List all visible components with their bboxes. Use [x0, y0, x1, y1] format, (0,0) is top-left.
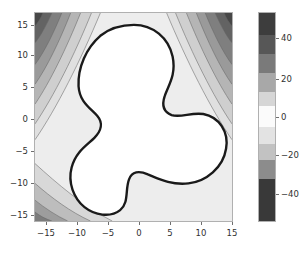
ytick-mark-neg15 [31, 215, 34, 216]
colorbar-band-10 [259, 179, 275, 222]
cbtick-label-0: 0 [281, 112, 286, 122]
ytick-label-neg5: −5 [2, 146, 28, 156]
cbtick-label-20: 20 [281, 74, 292, 84]
colorbar-band-3 [259, 54, 275, 73]
ytick-mark-neg5 [31, 151, 34, 152]
cbtick-label-neg40: −40 [281, 189, 299, 199]
ytick-label-0: 0 [2, 114, 28, 124]
xtick-label-10: 10 [186, 228, 216, 238]
xtick-label-neg5: −5 [93, 228, 123, 238]
xtick-mark-neg5 [108, 222, 109, 225]
ytick-label-neg10: −10 [2, 178, 28, 188]
contour-figure: 15 10 5 0 −5 −10 −15 −15 −10 −5 0 5 10 1… [0, 0, 305, 257]
xtick-label-neg15: −15 [31, 228, 61, 238]
cbtick-label-neg20: −20 [281, 150, 299, 160]
xtick-mark-15 [232, 222, 233, 225]
colorbar [258, 12, 276, 222]
cbtick-mark-neg20 [276, 155, 279, 156]
ytick-mark-0 [31, 119, 34, 120]
colorbar-band-9 [259, 160, 275, 179]
ytick-label-15: 15 [2, 20, 28, 30]
xtick-label-5: 5 [155, 228, 185, 238]
xtick-mark-neg10 [77, 222, 78, 225]
xtick-mark-neg15 [46, 222, 47, 225]
colorbar-band-8 [259, 144, 275, 160]
ytick-label-5: 5 [2, 82, 28, 92]
ytick-label-10: 10 [2, 50, 28, 60]
cbtick-mark-0 [276, 117, 279, 118]
xtick-mark-5 [170, 222, 171, 225]
ytick-mark-15 [31, 25, 34, 26]
xtick-mark-10 [201, 222, 202, 225]
xtick-label-neg10: −10 [62, 228, 92, 238]
ytick-mark-10 [31, 55, 34, 56]
ytick-label-neg15: −15 [2, 210, 28, 220]
contour-svg [35, 13, 232, 221]
cbtick-mark-20 [276, 79, 279, 80]
plot-axes [34, 12, 233, 222]
xtick-label-15: 15 [217, 228, 247, 238]
colorbar-band-1 [259, 13, 275, 35]
colorbar-band-2 [259, 35, 275, 54]
cbtick-mark-40 [276, 38, 279, 39]
cbtick-label-40: 40 [281, 33, 292, 43]
colorbar-band-4 [259, 73, 275, 92]
colorbar-band-7 [259, 127, 275, 144]
xtick-mark-0 [139, 222, 140, 225]
ytick-mark-5 [31, 87, 34, 88]
cbtick-mark-neg40 [276, 194, 279, 195]
ytick-mark-neg10 [31, 183, 34, 184]
colorbar-band-5 [259, 92, 275, 106]
xtick-label-0: 0 [124, 228, 154, 238]
colorbar-band-6 [259, 106, 275, 127]
